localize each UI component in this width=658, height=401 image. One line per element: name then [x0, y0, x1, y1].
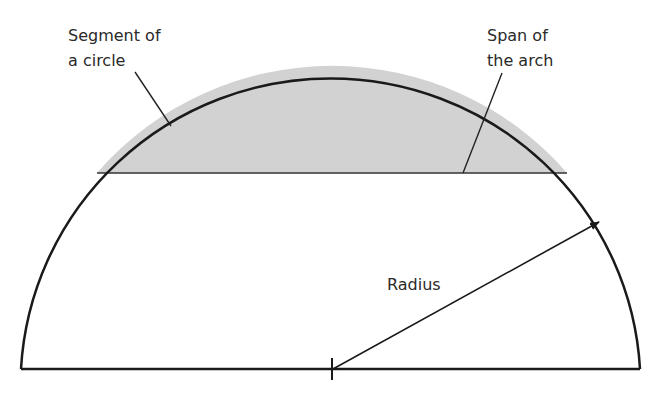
segment-label-line1: Segment of	[68, 26, 161, 45]
circle-segment	[97, 66, 567, 173]
segment-leader-line	[135, 72, 171, 126]
arch-diagram: Segment of a circle Span of the arch Rad…	[0, 0, 658, 401]
span-label-line1: Span of	[487, 26, 548, 45]
span-label-line2: the arch	[487, 51, 553, 70]
radius-label: Radius	[387, 275, 441, 294]
segment-label-line2: a circle	[68, 51, 125, 70]
radius-arrow	[333, 222, 599, 369]
